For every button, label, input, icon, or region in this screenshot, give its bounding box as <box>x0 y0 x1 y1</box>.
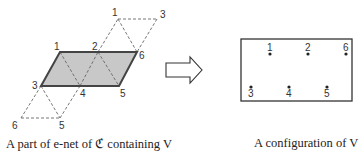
label-bot-6: 6 <box>12 120 18 131</box>
label-p6: 6 <box>139 50 145 61</box>
point-label-6: 6 <box>343 42 349 53</box>
label-p3: 3 <box>32 80 38 91</box>
left-caption: A part of e-net of ℭ containing V <box>6 136 172 152</box>
point-label-1: 1 <box>267 42 273 53</box>
label-top-1: 1 <box>112 7 118 18</box>
e-net-diagram: 1 3 1 2 6 3 4 5 6 5 <box>12 7 166 131</box>
point-label-5: 5 <box>324 88 330 99</box>
point-label-2: 2 <box>305 42 311 53</box>
right-caption: A configuration of V <box>254 136 358 151</box>
label-p1: 1 <box>54 41 60 52</box>
label-top-3: 3 <box>160 9 166 20</box>
label-p5: 5 <box>120 88 126 99</box>
point-label-3: 3 <box>248 88 254 99</box>
label-p2: 2 <box>92 41 98 52</box>
point-label-4: 4 <box>286 88 292 99</box>
configuration-box <box>241 39 352 101</box>
label-p4: 4 <box>80 88 86 99</box>
right-arrow-icon <box>166 57 202 83</box>
diagram-canvas: 1 3 1 2 6 3 4 5 6 5 126345 <box>0 0 363 155</box>
label-bot-5: 5 <box>59 120 65 131</box>
